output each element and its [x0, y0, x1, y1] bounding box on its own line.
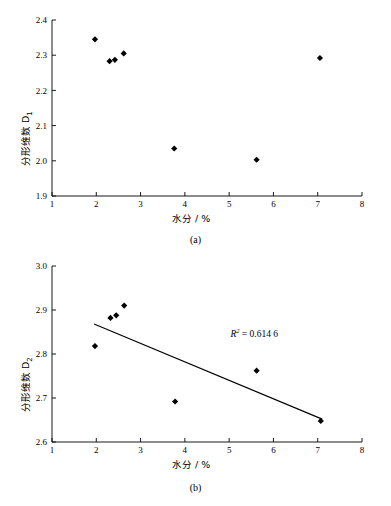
- svg-text:3.0: 3.0: [36, 261, 48, 271]
- svg-text:2.3: 2.3: [36, 50, 48, 60]
- caption-a: (a): [0, 234, 391, 245]
- plot-a-wrapper: 123456781.92.02.12.22.32.4: [0, 6, 391, 216]
- svg-text:8: 8: [360, 199, 365, 209]
- svg-text:8: 8: [360, 445, 365, 455]
- svg-text:2.7: 2.7: [36, 393, 48, 403]
- scatter-plot-b: 123456782.62.72.82.93.0: [0, 252, 391, 462]
- caption-b: (b): [0, 482, 391, 493]
- x-axis-label-a: 水分 / %: [172, 211, 210, 225]
- svg-text:1: 1: [50, 445, 55, 455]
- x-axis-label-b: 水分 / %: [172, 457, 210, 471]
- svg-text:7: 7: [315, 445, 320, 455]
- svg-text:2: 2: [94, 445, 99, 455]
- svg-text:3: 3: [138, 445, 143, 455]
- svg-text:7: 7: [315, 199, 320, 209]
- panel-a: 123456781.92.02.12.22.32.4 分形维数 D1 水分 / …: [0, 6, 391, 252]
- svg-text:1: 1: [50, 199, 55, 209]
- svg-text:2: 2: [94, 199, 99, 209]
- svg-text:2.6: 2.6: [36, 437, 48, 447]
- y-axis-label-b: 分形维数 D2: [18, 357, 34, 412]
- svg-text:2.8: 2.8: [36, 349, 48, 359]
- r-squared-annotation: R2 = 0.614 6: [230, 327, 278, 339]
- svg-text:6: 6: [271, 445, 276, 455]
- plot-b-wrapper: 123456782.62.72.82.93.0: [0, 252, 391, 462]
- panel-b: 123456782.62.72.82.93.0 分形维数 D2 水分 / % R…: [0, 252, 391, 506]
- figure-page: 123456781.92.02.12.22.32.4 分形维数 D1 水分 / …: [0, 0, 391, 506]
- svg-text:4: 4: [183, 199, 188, 209]
- svg-text:5: 5: [227, 199, 232, 209]
- svg-text:1.9: 1.9: [36, 191, 48, 201]
- svg-text:6: 6: [271, 199, 276, 209]
- svg-text:2.2: 2.2: [36, 86, 47, 96]
- svg-text:3: 3: [138, 199, 143, 209]
- y-axis-label-a: 分形维数 D1: [18, 111, 34, 166]
- svg-text:2.9: 2.9: [36, 305, 48, 315]
- svg-text:4: 4: [183, 445, 188, 455]
- svg-text:2.4: 2.4: [36, 15, 48, 25]
- svg-text:2.1: 2.1: [36, 121, 47, 131]
- svg-text:5: 5: [227, 445, 232, 455]
- scatter-plot-a: 123456781.92.02.12.22.32.4: [0, 6, 391, 216]
- svg-text:2.0: 2.0: [36, 156, 48, 166]
